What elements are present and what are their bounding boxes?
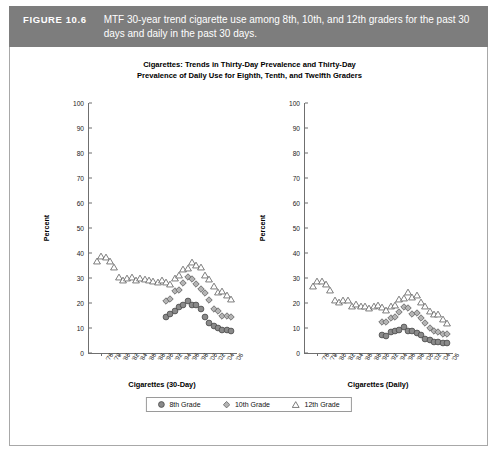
triangle-marker <box>227 296 235 303</box>
legend-item[interactable]: 10th Grade <box>223 401 270 408</box>
x-axis-tick-mark <box>145 353 146 356</box>
y-axis-tick-label: 60 <box>77 200 89 207</box>
chart-legend: 8th Grade10th Grade12th Grade <box>145 397 351 412</box>
x-axis-tick-mark <box>361 353 362 356</box>
plot-area-daily: 0102030405060708090100'76'78'80'82'84'86… <box>304 103 453 354</box>
circle-marker <box>444 340 451 347</box>
x-axis-tick-mark <box>179 353 180 356</box>
y-axis-tick-label: 100 <box>73 100 89 107</box>
y-axis-tick-label: 30 <box>77 275 89 282</box>
y-axis-tick-label: 50 <box>77 225 89 232</box>
triangle-marker <box>197 263 205 270</box>
chart-panel-daily: Percent 0102030405060708090100'76'78'80'… <box>258 95 458 395</box>
y-axis-tick-label: 90 <box>293 125 305 132</box>
x-axis-tick-mark <box>335 353 336 356</box>
x-axis-tick-mark <box>317 353 318 356</box>
y-axis-tick-label: 30 <box>293 275 305 282</box>
legend-item-label: 12th Grade <box>305 401 340 408</box>
circle-marker <box>157 401 164 408</box>
circle-marker <box>228 328 235 335</box>
triangle-marker <box>110 264 118 271</box>
x-axis-tick-mark <box>386 353 387 356</box>
x-axis-tick-mark <box>438 353 439 356</box>
x-axis-tick-mark <box>412 353 413 356</box>
y-axis-tick-label: 50 <box>293 225 305 232</box>
x-axis-tick-mark <box>205 353 206 356</box>
y-axis-tick-label: 70 <box>293 175 305 182</box>
y-axis-tick-label: 10 <box>293 325 305 332</box>
x-axis-tick-mark <box>404 353 405 356</box>
x-axis-tick-label: '06 <box>234 351 244 362</box>
y-axis-tick-label: 40 <box>293 250 305 257</box>
figure-number-label: FIGURE 10.6 <box>9 6 87 25</box>
y-axis-tick-label: 0 <box>296 350 305 357</box>
figure-caption: MTF 30-year trend cigarette use among 8t… <box>87 6 488 40</box>
y-axis-tick-label: 10 <box>77 325 89 332</box>
x-axis-tick-mark <box>421 353 422 356</box>
diamond-marker <box>227 313 234 320</box>
chart-title-line-1: Cigarettes: Trends in Thirty-Day Prevale… <box>10 59 489 70</box>
y-axis-tick-label: 70 <box>77 175 89 182</box>
x-axis-tick-mark <box>369 353 370 356</box>
legend-item[interactable]: 8th Grade <box>157 401 200 408</box>
x-axis-tick-mark <box>395 353 396 356</box>
figure-root: FIGURE 10.6 MTF 30-year trend cigarette … <box>0 0 497 454</box>
x-axis-tick-mark <box>326 353 327 356</box>
x-axis-tick-mark <box>447 353 448 356</box>
x-axis-tick-mark <box>196 353 197 356</box>
x-axis-tick-mark <box>127 353 128 356</box>
diamond-marker <box>167 296 174 303</box>
figure-body-panel: Cigarettes: Trends in Thirty-Day Prevale… <box>9 47 488 446</box>
x-axis-tick-mark <box>119 353 120 356</box>
legend-item-label: 10th Grade <box>235 401 270 408</box>
x-axis-tick-mark <box>170 353 171 356</box>
chart-title: Cigarettes: Trends in Thirty-Day Prevale… <box>10 59 489 81</box>
triangle-marker <box>184 265 192 272</box>
y-axis-tick-label: 100 <box>289 100 305 107</box>
chart-title-line-2: Prevalence of Daily Use for Eighth, Tent… <box>10 70 489 81</box>
diamond-marker <box>206 296 213 303</box>
chart-panel-30-day: Percent 0102030405060708090100'76'78'80'… <box>42 95 242 395</box>
triangle-marker <box>400 294 408 301</box>
y-axis-tick-label: 20 <box>77 300 89 307</box>
x-axis-tick-mark <box>136 353 137 356</box>
x-axis-tick-mark <box>110 353 111 356</box>
y-axis-tick-label: 20 <box>293 300 305 307</box>
x-axis-tick-mark <box>162 353 163 356</box>
x-axis-tick-mark <box>378 353 379 356</box>
x-axis-tick-mark <box>222 353 223 356</box>
x-axis-title-right: Cigarettes (Daily) <box>304 380 452 389</box>
y-axis-tick-label: 80 <box>293 150 305 157</box>
triangle-marker <box>443 319 451 326</box>
triangle-marker <box>326 286 334 293</box>
y-axis-tick-label: 60 <box>293 200 305 207</box>
y-axis-tick-label: 80 <box>77 150 89 157</box>
x-axis-tick-label: '06 <box>450 351 460 362</box>
x-axis-tick-mark <box>352 353 353 356</box>
x-axis-tick-mark <box>101 353 102 356</box>
legend-item[interactable]: 12th Grade <box>292 401 340 408</box>
x-axis-title-left: Cigarettes (30-Day) <box>88 380 236 389</box>
circle-marker <box>197 306 204 313</box>
y-axis-title-right: Percent <box>258 215 267 241</box>
legend-item-label: 8th Grade <box>169 401 200 408</box>
x-axis-tick-mark <box>430 353 431 356</box>
diamond-marker <box>223 401 230 408</box>
triangle-marker <box>206 276 214 283</box>
x-axis-tick-mark <box>343 353 344 356</box>
y-axis-tick-label: 90 <box>77 125 89 132</box>
x-axis-tick-mark <box>153 353 154 356</box>
x-axis-tick-mark <box>231 353 232 356</box>
y-axis-title-left: Percent <box>42 215 51 241</box>
x-axis-tick-mark <box>214 353 215 356</box>
x-axis-tick-mark <box>188 353 189 356</box>
figure-header-bar: FIGURE 10.6 MTF 30-year trend cigarette … <box>9 6 488 47</box>
triangle-marker <box>292 401 300 408</box>
plot-area-30-day: 0102030405060708090100'76'78'80'82'84'86… <box>88 103 237 354</box>
diamond-marker <box>443 330 450 337</box>
y-axis-tick-label: 0 <box>80 350 89 357</box>
y-axis-tick-label: 40 <box>77 250 89 257</box>
